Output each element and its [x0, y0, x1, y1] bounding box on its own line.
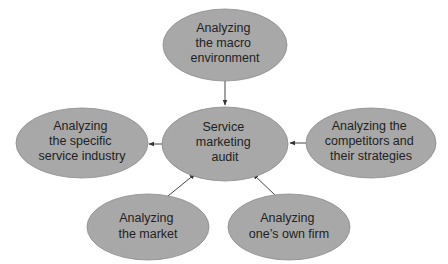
node-label: Analyzing the competitors and their stra… — [325, 119, 417, 163]
node-own-firm: Analyzing one’s own firm — [228, 194, 350, 260]
node-label: Analyzing the macro environment — [191, 21, 260, 65]
node-specific-service-industry: Analyzing the specific service industry — [16, 108, 148, 178]
node-service-marketing-audit: Service marketing audit — [162, 107, 288, 181]
node-competitors-strategies: Analyzing the competitors and their stra… — [306, 108, 436, 178]
node-market: Analyzing the market — [87, 194, 209, 260]
edge-own-firm-to-audit — [253, 174, 276, 196]
service-marketing-audit-diagram: Analyzing the macro environment Service … — [0, 0, 448, 264]
edge-market-to-audit — [168, 174, 195, 196]
node-macro-environment: Analyzing the macro environment — [163, 9, 287, 81]
